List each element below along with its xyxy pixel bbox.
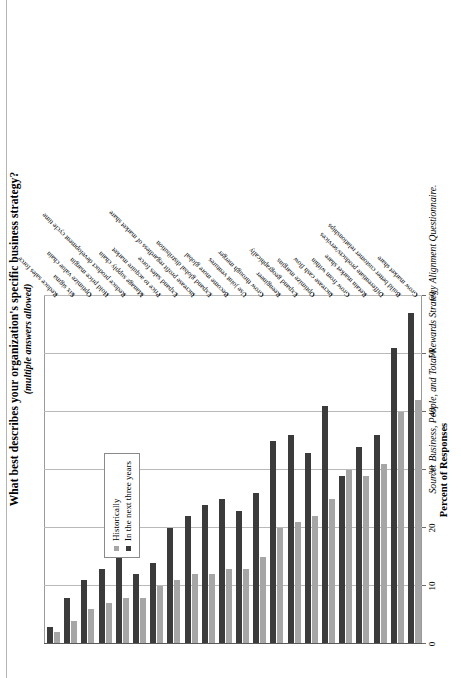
bar-historically (226, 569, 232, 644)
bar-historically (157, 586, 163, 644)
bar-next-three-years (270, 441, 276, 644)
bar-next-three-years (253, 493, 259, 644)
bar-row (236, 296, 253, 644)
bar-historically (192, 574, 198, 644)
bar-row (202, 296, 219, 644)
bar-historically (88, 609, 94, 644)
bar-next-three-years (374, 435, 380, 644)
bar-historically (123, 598, 129, 644)
bar-row (270, 296, 287, 644)
bar-historically (363, 476, 369, 644)
value-axis-line (44, 643, 422, 644)
bar-historically (260, 557, 266, 644)
bar-next-three-years (288, 435, 294, 644)
bar-next-three-years (150, 563, 156, 644)
bar-next-three-years (322, 406, 328, 644)
bar-next-three-years (236, 511, 242, 644)
bar-historically (295, 522, 301, 644)
bar-row (288, 296, 305, 644)
bar-next-three-years (305, 453, 311, 644)
bar-next-three-years (99, 569, 105, 644)
legend-item-historically: Historically (111, 461, 121, 551)
bar-next-three-years (133, 574, 139, 644)
bar-historically (106, 603, 112, 644)
bar-historically (329, 499, 335, 644)
bar-row (185, 296, 202, 644)
legend-swatch-icon (114, 546, 119, 551)
legend: Historically In the next three years (104, 453, 140, 558)
bar-historically (71, 621, 77, 644)
bar-next-three-years (185, 516, 191, 644)
bar-historically (209, 574, 215, 644)
bar-historically (398, 412, 404, 644)
bar-next-three-years (167, 528, 173, 644)
legend-label: In the next three years (123, 461, 133, 541)
chart-title: What best describes your organization's … (8, 0, 20, 678)
bar-next-three-years (339, 476, 345, 644)
bar-historically (277, 528, 283, 644)
legend-item-next-three-years: In the next three years (123, 461, 133, 551)
bar-next-three-years (81, 580, 87, 644)
source-note-area: Source: Business, People, and Total Rewa… (404, 0, 460, 678)
bar-row (374, 296, 391, 644)
bar-next-three-years (64, 598, 70, 644)
bar-row (305, 296, 322, 644)
bar-next-three-years (356, 447, 362, 644)
bar-historically (140, 598, 146, 644)
bar-row (356, 296, 373, 644)
bar-next-three-years (202, 505, 208, 644)
bar-next-three-years (391, 348, 397, 644)
bar-row (47, 296, 64, 644)
bar-historically (243, 569, 249, 644)
bar-row (253, 296, 270, 644)
chart-canvas: What best describes your organization's … (0, 0, 461, 678)
legend-label: Historically (111, 499, 121, 542)
legend-swatch-icon (126, 546, 131, 551)
plot-area: Historically In the next three years (44, 296, 422, 644)
bar-historically (346, 470, 352, 644)
chart-subtitle: (multiple answers allowed) (22, 0, 33, 678)
bar-row (322, 296, 339, 644)
bar-row (167, 296, 184, 644)
bar-row (219, 296, 236, 644)
source-note: Source: Business, People, and Total Rewa… (427, 185, 438, 494)
bar-row (339, 296, 356, 644)
bar-row (81, 296, 98, 644)
bar-rows (44, 296, 422, 644)
bar-row (150, 296, 167, 644)
bar-historically (312, 516, 318, 644)
bar-next-three-years (219, 499, 225, 644)
bar-historically (174, 580, 180, 644)
bar-next-three-years (47, 627, 53, 644)
bar-row (64, 296, 81, 644)
title-block: What best describes your organization's … (8, 0, 33, 678)
category-labels: Grow market shareBuild better customer r… (44, 0, 444, 296)
bar-historically (381, 464, 387, 644)
